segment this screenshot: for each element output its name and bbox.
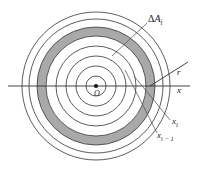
x-i-subscript: i — [176, 121, 178, 128]
x-i-label: xi — [172, 117, 178, 128]
x-axis-label: x — [177, 86, 181, 95]
delta-area-label: ΔAi — [148, 14, 163, 27]
origin-label: O — [94, 90, 100, 98]
figure-container: ΔAi r x xi xi − 1 O — [0, 0, 197, 177]
r-axis-label: r — [177, 68, 181, 77]
x-i-minus-1-subscript: i − 1 — [161, 135, 174, 142]
delta-area-subscript: i — [161, 19, 163, 27]
r-axis-ray — [150, 62, 188, 86]
x-i-minus-1-label: xi − 1 — [157, 131, 174, 142]
origin-dot — [94, 84, 98, 88]
